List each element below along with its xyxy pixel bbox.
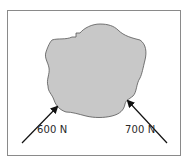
force-label-700n: 700 N xyxy=(125,124,155,135)
force-label-600n: 600 N xyxy=(37,124,67,135)
force-diagram xyxy=(0,0,192,165)
force-arrow-700n xyxy=(128,101,167,143)
